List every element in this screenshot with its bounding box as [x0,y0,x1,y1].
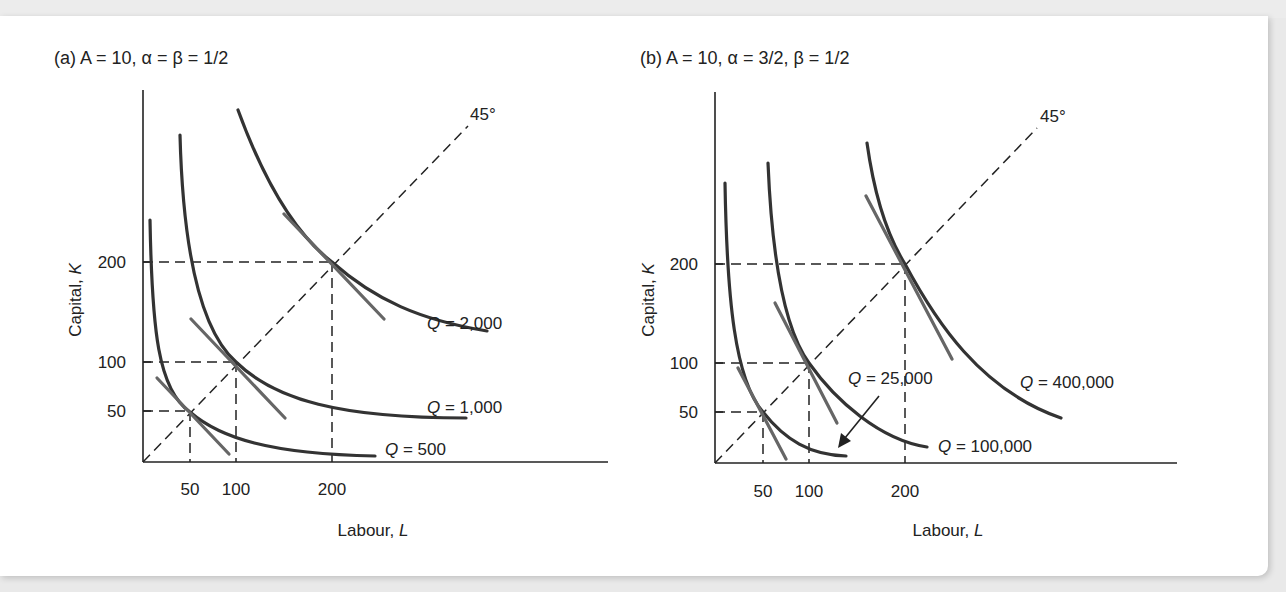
panel-b: (b) A = 10, α = 3/2, β = 1/2 45° 200 100… [639,48,1177,540]
q-label-2000: Q = 2,000 [427,314,502,333]
isoquant-q25000 [725,183,846,456]
y-ticks [715,264,723,412]
isoquants [725,143,1061,456]
y-axis-title: Capital, K [66,262,85,336]
panel-a: (a) A = 10, α = β = 1/2 45° 200 100 50 5… [54,48,608,540]
x-tick-200: 200 [318,480,346,499]
x-axis-title: Labour, L [338,521,409,540]
x-tick-100: 100 [795,482,823,501]
q-label-1000: Q = 1,000 [427,398,502,417]
panel-b-title: (b) A = 10, α = 3/2, β = 1/2 [640,48,849,68]
figure-canvas: (a) A = 10, α = β = 1/2 45° 200 100 50 5… [0,0,1286,592]
x-tick-200: 200 [891,482,919,501]
x-tick-50: 50 [754,482,773,501]
y-tick-100: 100 [98,353,126,372]
q-label-400000: Q = 400,000 [1020,373,1114,392]
isoquant-q100000 [768,163,927,447]
y-tick-100: 100 [670,354,698,373]
x-tick-50: 50 [181,480,200,499]
y-tick-200: 200 [98,253,126,272]
diagonal-label: 45° [470,105,496,124]
y-tick-50: 50 [107,402,126,421]
x-axis-title: Labour, L [913,521,984,540]
diagonal-label: 45° [1040,107,1066,126]
x-tick-100: 100 [222,480,250,499]
y-tick-200: 200 [670,255,698,274]
q-label-100000: Q = 100,000 [938,437,1032,456]
isoquant-q500 [150,220,375,456]
y-axis-title: Capital, K [639,262,658,336]
y-tick-50: 50 [679,403,698,422]
q-label-25000: Q = 25,000 [848,369,933,388]
panel-a-title: (a) A = 10, α = β = 1/2 [54,48,228,68]
q-label-500: Q = 500 [385,440,446,459]
y-ticks [143,262,151,411]
